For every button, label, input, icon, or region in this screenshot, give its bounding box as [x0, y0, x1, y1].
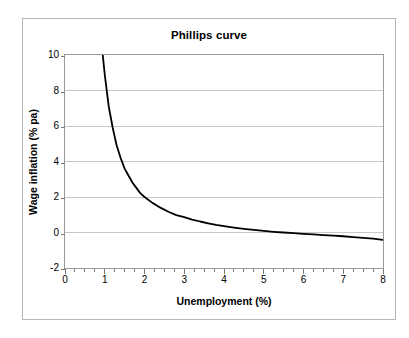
x-axis-tick-label: 8 [368, 275, 398, 285]
y-axis-tick-label: 6 [25, 121, 59, 131]
x-axis-tick-label: 1 [90, 275, 120, 285]
plot-svg [65, 55, 383, 268]
x-axis-tick-label: 4 [209, 275, 239, 285]
x-axis-tick-labels: 012345678 [64, 275, 384, 289]
y-axis-tick-label: 10 [25, 50, 59, 60]
x-axis-tick-label: 6 [289, 275, 319, 285]
y-axis-tick-label: 0 [25, 228, 59, 238]
y-axis-tick-labels: -20246810 [23, 54, 59, 269]
y-axis-tick-mark [61, 163, 65, 164]
y-axis-tick-mark [61, 234, 65, 235]
plot-area [64, 54, 384, 269]
x-axis-title: Unemployment (%) [64, 295, 384, 307]
y-axis-tick-label: 8 [25, 86, 59, 96]
series-line-group [103, 55, 383, 240]
x-axis-tick-label: 5 [249, 275, 279, 285]
series-line [103, 55, 383, 240]
chart-title: Phillips curve [23, 29, 395, 41]
x-axis-tick-label: 0 [50, 275, 80, 285]
y-axis-tick-label: 2 [25, 192, 59, 202]
x-axis-tick-label: 7 [328, 275, 358, 285]
y-axis-tick-mark [61, 56, 65, 57]
y-axis-tick-mark [61, 127, 65, 128]
y-axis-tick-label: -2 [25, 263, 59, 273]
y-axis-tick-mark [61, 198, 65, 199]
y-axis-tick-label: 4 [25, 157, 59, 167]
x-axis-tick-label: 3 [169, 275, 199, 285]
x-axis-tick-label: 2 [130, 275, 160, 285]
gridlines [65, 91, 383, 233]
y-axis-tick-mark [61, 92, 65, 93]
chart-frame: Phillips curve Wage inflation (% pa) -20… [22, 18, 396, 320]
